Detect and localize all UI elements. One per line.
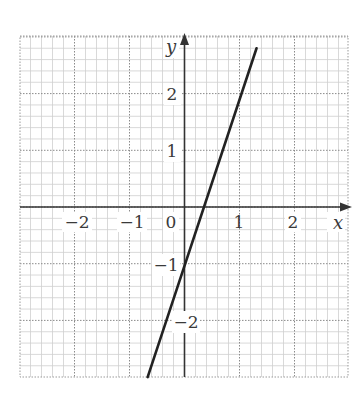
- y-tick-label: 2: [167, 84, 178, 104]
- y-tick-label: −2: [173, 312, 198, 332]
- x-tick-label: 0: [166, 212, 177, 232]
- y-axis-arrow-icon: [180, 33, 189, 45]
- y-tick-label: −1: [153, 255, 178, 275]
- x-tick-labels: −2 −1 0 1 2: [62, 212, 301, 232]
- x-tick-label: −1: [119, 212, 144, 232]
- x-axis-label: x: [333, 212, 343, 233]
- x-tick-label: 2: [288, 212, 299, 232]
- y-axis-label: y: [165, 36, 177, 57]
- x-tick-label: −2: [64, 212, 89, 232]
- x-axis-arrow-icon: [340, 203, 352, 212]
- x-tick-label: 1: [234, 212, 245, 232]
- coordinate-plane: −2 −1 0 1 2 2 1 −1 −2 y x: [0, 0, 362, 394]
- y-tick-label: 1: [167, 141, 178, 161]
